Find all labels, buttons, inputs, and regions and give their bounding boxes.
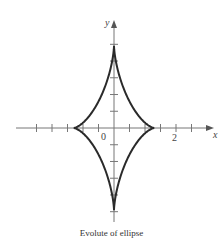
x-axis-label: x (212, 129, 218, 140)
y-axis-label: y (104, 17, 110, 28)
x-axis (16, 124, 214, 132)
origin-label: 0 (101, 131, 106, 142)
y-arrow-icon (111, 20, 117, 28)
x-tick-label-2: 2 (172, 132, 177, 143)
figure-caption: Evolute of ellipse (0, 228, 223, 238)
evolute-chart: y x 0 2 (0, 0, 223, 240)
